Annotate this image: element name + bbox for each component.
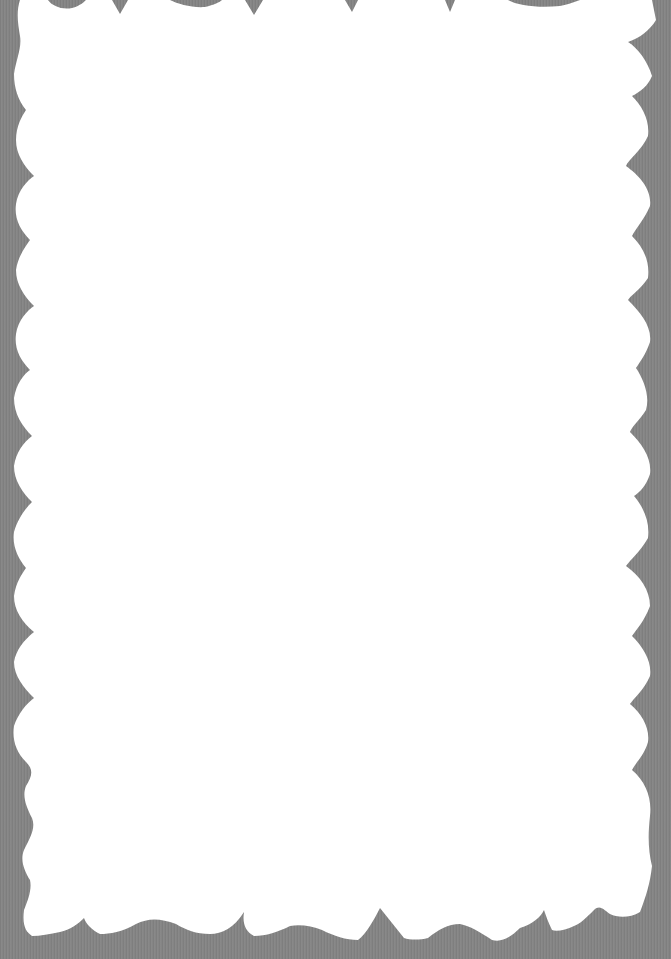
scalloped-paper-frame <box>0 0 671 959</box>
gray-background <box>0 0 671 959</box>
paper-shape <box>14 0 657 941</box>
